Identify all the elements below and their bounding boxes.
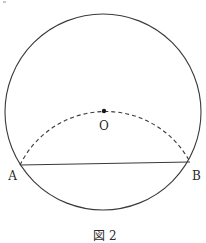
label-a: A bbox=[7, 169, 17, 183]
label-b: B bbox=[192, 169, 201, 183]
center-point-o bbox=[102, 109, 106, 113]
chord-ab bbox=[20, 162, 190, 165]
label-o: O bbox=[99, 119, 109, 133]
figure-caption: 図 2 bbox=[93, 229, 116, 243]
geometry-figure: O A B 図 2 bbox=[0, 0, 206, 243]
scan-artifact bbox=[3, 1, 6, 3]
